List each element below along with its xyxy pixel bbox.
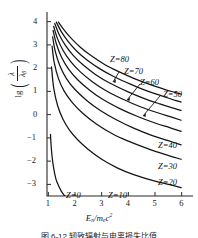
- x-axis-label-c-sup: 2: [109, 212, 112, 218]
- y-tick-label: 4: [33, 16, 37, 26]
- series-label-z20: Z=20: [158, 177, 177, 187]
- y-tick-label: 3: [33, 39, 37, 49]
- figure-caption: 图 6-12 轫致辐射与电离损失比值: [0, 230, 198, 238]
- series-label-z50: Z=50: [163, 89, 182, 99]
- x-axis-label: En/mec2: [0, 212, 198, 223]
- x-tick-label: 1: [46, 198, 50, 208]
- y-tick-label: −1: [27, 132, 36, 142]
- y-tick-label: 2: [33, 62, 37, 72]
- y-tick-label: −2: [27, 155, 36, 165]
- y-tick-label: 0: [33, 109, 37, 119]
- series-label-z10: Z=10: [108, 190, 127, 200]
- x-axis-label-div: /m: [94, 213, 103, 223]
- chart-figure: lg ( λ λβ ) En/mec2 图 6-12 轫致辐射与电离损失比值 4…: [0, 0, 198, 238]
- curve-z0: [50, 134, 64, 196]
- series-label-z40: Z=40: [158, 140, 177, 150]
- series-label-z80: Z=80: [110, 54, 129, 64]
- x-tick-label: 3: [99, 198, 103, 208]
- series-label-z70: Z=70: [124, 66, 143, 76]
- series-label-z0: Z=0: [66, 190, 81, 200]
- y-tick-label: −3: [27, 178, 36, 188]
- x-tick-label: 6: [179, 198, 183, 208]
- series-label-z60: Z=60: [140, 77, 159, 87]
- y-tick-label: 1: [33, 85, 37, 95]
- x-tick-label: 5: [153, 198, 157, 208]
- series-label-z30: Z=30: [158, 161, 177, 171]
